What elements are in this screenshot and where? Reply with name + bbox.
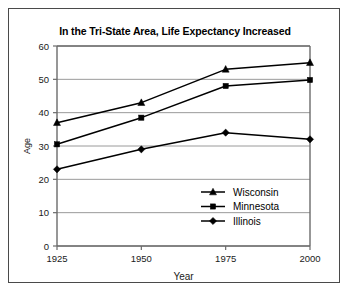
y-tick-label: 20 xyxy=(38,174,49,185)
legend-label-wisconsin: Wisconsin xyxy=(233,187,279,198)
data-point-marker xyxy=(54,142,59,147)
diamond-marker-icon xyxy=(209,217,216,224)
series-line xyxy=(57,63,310,123)
y-tick-label: 0 xyxy=(44,241,49,252)
data-point-marker xyxy=(139,115,144,120)
series-line xyxy=(57,133,310,170)
x-axis-tick-labels: 1925195019752000 xyxy=(46,253,320,264)
legend-label-illinois: Illinois xyxy=(233,216,261,227)
axes-group xyxy=(53,46,310,250)
data-point-marker xyxy=(223,83,228,88)
data-series-group xyxy=(53,59,313,173)
y-tick-label: 50 xyxy=(38,74,49,85)
square-marker-icon xyxy=(210,204,215,209)
data-point-marker xyxy=(306,136,313,143)
data-point-marker xyxy=(53,166,60,173)
x-tick-label: 1925 xyxy=(46,253,67,264)
y-tick-label: 40 xyxy=(38,107,49,118)
series-illinois xyxy=(53,129,313,173)
chart-screenshot: In the Tri-State Area, Life Expectancy I… xyxy=(0,0,350,293)
y-tick-label: 30 xyxy=(38,141,49,152)
y-tick-label: 10 xyxy=(38,207,49,218)
chart-legend: WisconsinMinnesotaIllinois xyxy=(201,187,280,227)
gridlines-group xyxy=(57,46,310,246)
y-axis-title: Age xyxy=(22,138,32,154)
legend-label-minnesota: Minnesota xyxy=(233,201,280,212)
chart-plot-area: 0102030405060 1925195019752000 Wisconsin… xyxy=(0,0,350,293)
series-wisconsin xyxy=(54,59,314,126)
data-point-marker xyxy=(222,129,229,136)
y-axis-tick-labels: 0102030405060 xyxy=(38,41,49,252)
x-tick-label: 1950 xyxy=(131,253,152,264)
x-axis-title: Year xyxy=(173,271,194,282)
x-tick-label: 1975 xyxy=(215,253,236,264)
y-tick-label: 60 xyxy=(38,41,49,52)
x-tick-label: 2000 xyxy=(299,253,320,264)
data-point-marker xyxy=(307,77,312,82)
data-point-marker xyxy=(138,146,145,153)
